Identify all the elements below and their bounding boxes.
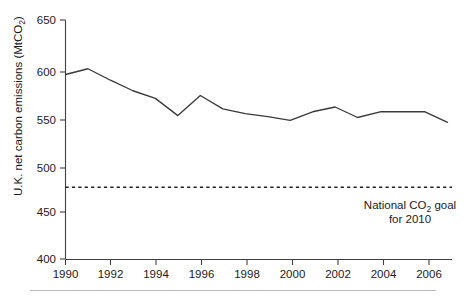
y-tick-label-550: 550 — [37, 114, 56, 126]
annotation-text-post: goal — [431, 199, 456, 211]
x-tick-label-1996: 1996 — [189, 268, 215, 280]
emissions-series-line — [66, 69, 448, 123]
annotation-text-pre: National CO — [364, 199, 427, 211]
annotation-line-2: for 2010 — [389, 213, 431, 225]
annotation-line-1: National CO2 goal — [364, 199, 456, 214]
x-tick-label-1994: 1994 — [143, 268, 169, 280]
x-tick-label-2002: 2002 — [325, 268, 351, 280]
y-tick-label-400: 400 — [37, 253, 56, 265]
y-tick-label-500: 500 — [37, 162, 56, 174]
y-axis-title-tail: ) — [12, 16, 24, 20]
x-tick-label-1998: 1998 — [234, 268, 260, 280]
x-tick-label-2004: 2004 — [371, 268, 397, 280]
chart-figure: 650 600 550 500 450 400 U.K. net carbon … — [0, 0, 464, 301]
y-tick-label-450: 450 — [37, 206, 56, 218]
y-tick-label-650: 650 — [37, 14, 56, 26]
line-chart: 650 600 550 500 450 400 U.K. net carbon … — [0, 0, 464, 301]
y-axis-title: U.K. net carbon emissions (MtCO2) — [12, 16, 27, 196]
y-tick-label-600: 600 — [37, 66, 56, 78]
x-tick-label-1992: 1992 — [98, 268, 124, 280]
svg-text:U.K. net carbon emissions (MtC: U.K. net carbon emissions (MtCO2) — [12, 16, 27, 196]
y-axis-title-main: U.K. net carbon emissions (MtCO — [12, 25, 24, 196]
x-tick-label-2000: 2000 — [280, 268, 306, 280]
x-tick-label-1990: 1990 — [53, 268, 79, 280]
x-tick-label-2006: 2006 — [416, 268, 442, 280]
